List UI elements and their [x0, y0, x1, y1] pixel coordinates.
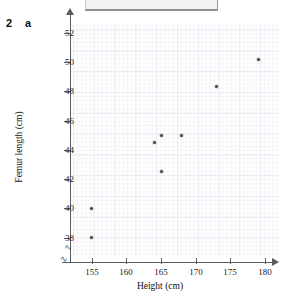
x-axis-label: Height (cm)	[105, 281, 215, 291]
y-tick-label: 46	[52, 117, 74, 126]
x-tick-label: 165	[146, 268, 176, 277]
data-point	[257, 58, 260, 61]
y-tick-label: 50	[52, 58, 74, 67]
y-tick-label: 52	[52, 29, 74, 38]
x-tick-label: 170	[181, 268, 211, 277]
x-tick-label: 160	[111, 268, 141, 277]
x-tick-label: 175	[215, 268, 245, 277]
x-tick	[265, 258, 266, 264]
scatter-plot: ∿ ∿ 3840424446485052 155160165170175180 …	[0, 0, 287, 299]
data-point	[160, 134, 163, 137]
x-axis-line	[62, 262, 274, 263]
x-tick-label: 180	[250, 268, 280, 277]
x-axis-arrow-icon	[272, 258, 279, 266]
y-axis-break-icon: ∿	[63, 242, 73, 252]
y-axis-arrow-icon	[66, 8, 74, 15]
x-tick	[126, 258, 127, 264]
data-point	[153, 141, 156, 144]
plot-gridlines	[71, 24, 279, 258]
y-tick-label: 40	[52, 204, 74, 213]
y-tick-label: 44	[52, 146, 74, 155]
x-tick	[230, 258, 231, 264]
x-tick	[92, 258, 93, 264]
x-tick-label: 155	[77, 268, 107, 277]
y-axis-label: Femur length (cm)	[14, 92, 24, 202]
y-axis-line	[70, 12, 71, 263]
x-axis-break-icon: ∿	[60, 255, 68, 264]
y-tick-label: 42	[52, 175, 74, 184]
x-tick	[196, 258, 197, 264]
data-point	[160, 170, 163, 173]
x-tick	[161, 258, 162, 264]
y-tick-label: 38	[52, 234, 74, 243]
y-tick-label: 48	[52, 87, 74, 96]
